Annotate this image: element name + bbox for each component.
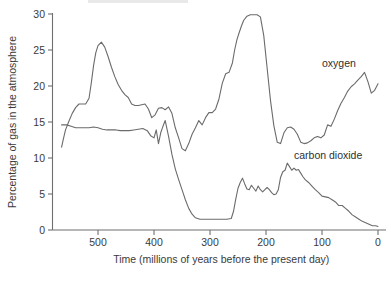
y-tick-label: 30	[33, 8, 45, 20]
chart-plot-svg: 051015202530 5004003002001000 oxygencarb…	[0, 0, 391, 281]
chart-axis-titles: Time (millions of years before the prese…	[6, 36, 329, 265]
x-tick-label: 300	[201, 236, 219, 248]
y-axis-ticks: 051015202530	[33, 8, 52, 236]
x-axis-title: Time (millions of years before the prese…	[113, 253, 329, 265]
x-tick-label: 500	[89, 236, 107, 248]
x-tick-label: 200	[257, 236, 275, 248]
y-axis-title: Percentage of gas in the atmosphere	[6, 36, 18, 208]
chart-series-labels: oxygencarbon dioxide	[294, 57, 362, 160]
y-tick-label: 25	[33, 44, 45, 56]
x-axis-ticks: 5004003002001000	[89, 230, 381, 248]
x-tick-label: 100	[313, 236, 331, 248]
y-tick-label: 10	[33, 152, 45, 164]
clipped-top-text	[88, 0, 188, 3]
series-label-oxygen: oxygen	[322, 57, 356, 69]
y-tick-label: 15	[33, 116, 45, 128]
y-tick-label: 20	[33, 80, 45, 92]
x-tick-label: 0	[375, 236, 381, 248]
x-tick-label: 400	[145, 236, 163, 248]
series-label-carbon-dioxide: carbon dioxide	[294, 149, 362, 161]
chart-series-lines	[62, 15, 378, 227]
chart-axes	[53, 13, 387, 230]
y-tick-label: 0	[39, 224, 45, 236]
chart-figure: 051015202530 5004003002001000 oxygencarb…	[0, 0, 391, 281]
clipped-heading-remnant	[88, 0, 188, 3]
y-tick-label: 5	[39, 188, 45, 200]
series-line-carbon-dioxide	[62, 121, 378, 227]
